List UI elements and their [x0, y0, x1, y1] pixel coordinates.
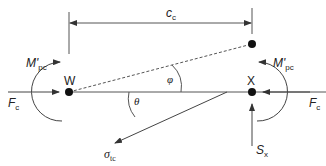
dimension-label-sub: c	[172, 13, 176, 22]
axial-force-left-label: Fc	[8, 97, 19, 109]
moment-right-sub: pc	[285, 63, 293, 72]
point-w-label: W	[64, 75, 75, 87]
axial-force-left-sub: c	[15, 103, 19, 112]
tension-sub: tc	[110, 154, 116, 163]
moment-left-sub: pc	[38, 63, 46, 72]
phi-label: φ	[167, 74, 173, 85]
dimension-label: cc	[166, 7, 176, 19]
theta-label: θ	[134, 96, 139, 107]
tension-label: σtc	[104, 148, 116, 160]
rotated-point-dot	[248, 40, 256, 48]
dashed-rotated-line	[69, 44, 252, 92]
shear-force-label: Sx	[256, 144, 268, 156]
axial-force-right-label: Fc	[309, 97, 320, 109]
axial-force-right-sub: c	[316, 103, 320, 112]
moment-right-main: M'	[273, 56, 285, 70]
point-x-label: X	[247, 75, 255, 87]
phi-angle-arc	[172, 65, 181, 92]
point-w-dot	[65, 88, 73, 96]
shear-force-main: S	[256, 143, 264, 157]
shear-force-sub: x	[264, 150, 268, 159]
moment-left-main: M'	[26, 56, 38, 70]
moment-right-label: M'pc	[273, 57, 294, 69]
force-diagram	[0, 0, 326, 166]
point-x-dot	[248, 88, 256, 96]
moment-left-label: M'pc	[26, 57, 47, 69]
tension-vector	[115, 92, 227, 143]
